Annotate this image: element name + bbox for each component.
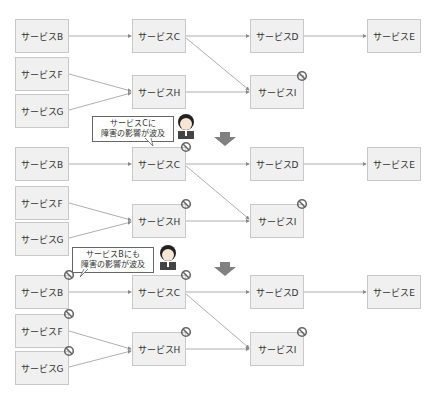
stage3-node-h: サービスH xyxy=(132,332,186,366)
speech-bubble: サービスCに 障害の影響が波及 xyxy=(92,116,174,142)
blocked-icon xyxy=(180,198,192,210)
stage1-node-b: サービスB xyxy=(15,19,69,53)
blocked-icon xyxy=(296,326,308,338)
bubble-tail xyxy=(145,138,155,146)
down-arrow-icon xyxy=(214,262,236,276)
stage2-node-b: サービスB xyxy=(15,147,69,181)
stage2-node-h: サービスH xyxy=(132,204,186,238)
person-icon xyxy=(157,244,179,270)
stage-1-edges xyxy=(69,36,366,110)
stage3-node-c: サービスC xyxy=(132,275,186,309)
stage1-node-e: サービスE xyxy=(367,19,421,53)
stage2-node-e: サービスE xyxy=(367,147,421,181)
stage3-node-f: サービスF xyxy=(15,314,69,348)
stage-3-edges xyxy=(69,292,366,367)
stage2-node-c: サービスC xyxy=(132,147,186,181)
stage1-node-c: サービスC xyxy=(132,19,186,53)
person-icon xyxy=(175,113,197,139)
stage1-node-d: サービスD xyxy=(250,19,304,53)
stage2-node-d: サービスD xyxy=(250,147,304,181)
stage3-node-e: サービスE xyxy=(367,275,421,309)
stage-2-edges xyxy=(69,164,366,238)
blocked-icon xyxy=(180,326,192,338)
down-arrow-icon xyxy=(214,132,236,146)
bubble-tail xyxy=(80,269,90,277)
stage3-node-d: サービスD xyxy=(250,275,304,309)
blocked-icon xyxy=(63,345,75,357)
blocked-icon xyxy=(296,70,308,82)
stage2-node-g: サービスG xyxy=(15,222,69,256)
stage1-node-f: サービスF xyxy=(15,57,69,91)
dependency-diagram: サービスB サービスC サービスD サービスE サービスF サービスG サービス… xyxy=(0,0,434,400)
stage2-node-f: サービスF xyxy=(15,186,69,220)
blocked-icon xyxy=(180,141,192,153)
stage1-node-h: サービスH xyxy=(132,75,186,109)
blocked-icon xyxy=(296,198,308,210)
blocked-icon xyxy=(180,269,192,281)
stage3-node-b: サービスB xyxy=(15,275,69,309)
stage3-node-g: サービスG xyxy=(15,351,69,385)
stage1-node-g: サービスG xyxy=(15,94,69,128)
blocked-icon xyxy=(63,308,75,320)
blocked-icon xyxy=(63,269,75,281)
